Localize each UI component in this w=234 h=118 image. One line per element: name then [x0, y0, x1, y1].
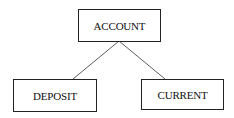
edge-account-deposit [73, 41, 119, 79]
node-deposit-label: DEPOSIT [33, 90, 77, 102]
node-account: ACCOUNT [78, 9, 161, 42]
node-current-label: CURRENT [158, 89, 208, 101]
node-current: CURRENT [141, 79, 224, 110]
node-account-label: ACCOUNT [94, 20, 146, 32]
diagram-canvas: ACCOUNT DEPOSIT CURRENT [0, 0, 234, 118]
edge-account-current [119, 41, 165, 79]
node-deposit: DEPOSIT [13, 79, 97, 112]
